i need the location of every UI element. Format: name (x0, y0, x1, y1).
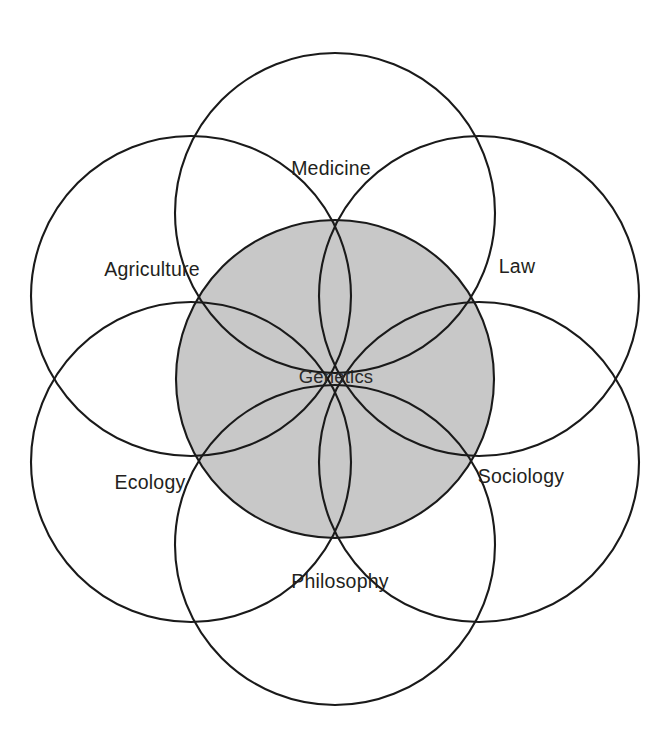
label-agriculture: Agriculture (104, 258, 199, 280)
label-ecology: Ecology (115, 471, 186, 493)
label-sociology: Sociology (478, 465, 564, 487)
label-law: Law (499, 255, 536, 277)
label-medicine: Medicine (291, 157, 371, 179)
venn-diagram-canvas: Medicine Law Sociology Philosophy Ecolog… (0, 0, 660, 743)
label-genetics: Genetics (299, 366, 374, 387)
venn-diagram-svg: Medicine Law Sociology Philosophy Ecolog… (0, 0, 660, 743)
label-philosophy: Philosophy (291, 570, 388, 592)
